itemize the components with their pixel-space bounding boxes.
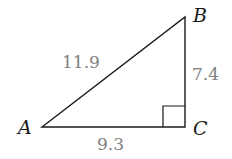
triangle-diagram: A B C 11.9 7.4 9.3 [0, 0, 232, 159]
right-angle-marker [163, 106, 185, 127]
side-label-bc: 7.4 [192, 64, 219, 84]
side-label-ab: 11.9 [62, 52, 100, 72]
vertex-label-a: A [16, 116, 32, 138]
side-label-ac: 9.3 [97, 134, 124, 154]
vertex-label-c: C [193, 117, 208, 139]
vertex-label-b: B [192, 4, 207, 26]
